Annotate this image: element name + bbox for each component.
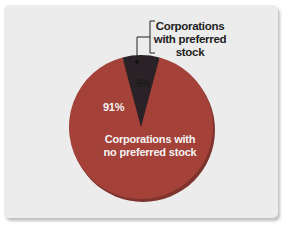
callout-dot <box>135 60 139 64</box>
label-no-preferred: Corporations with no preferred stock <box>100 133 200 159</box>
label-preferred: Corporations with preferred stock <box>150 20 230 59</box>
pie-chart <box>0 0 288 227</box>
pct-no-preferred: 91% <box>103 101 124 114</box>
pct-preferred: 9% <box>136 77 150 90</box>
